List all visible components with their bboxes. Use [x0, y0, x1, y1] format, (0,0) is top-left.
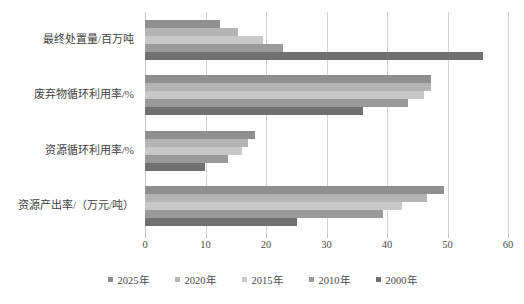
chart-legend: 2025年2020年2015年2010年2000年 — [0, 268, 524, 290]
category-label-1: 最终处置量/百万吨 — [0, 33, 134, 46]
legend-item-2010年[interactable]: 2010年 — [309, 272, 350, 287]
bar-2020年-资源循环利用率/%[interactable] — [145, 139, 248, 147]
bar-2020年-资源产出率/（万元/吨）[interactable] — [145, 194, 427, 202]
bar-2000年-废弃物循环利用率/%[interactable] — [145, 107, 363, 115]
legend-label: 2010年 — [319, 272, 350, 287]
x-tick-mark-60 — [508, 234, 509, 238]
bar-2025年-资源循环利用率/%[interactable] — [145, 131, 255, 139]
bar-2025年-废弃物循环利用率/%[interactable] — [145, 75, 431, 83]
bar-2000年-最终处置量/百万吨[interactable] — [145, 52, 483, 60]
legend-item-2000年[interactable]: 2000年 — [376, 272, 417, 287]
x-tick-label-40: 40 — [382, 239, 393, 250]
legend-swatch-icon — [242, 277, 247, 282]
x-tick-mark-10 — [206, 234, 207, 238]
bar-2000年-资源产出率/（万元/吨）[interactable] — [145, 218, 297, 226]
bar-2020年-最终处置量/百万吨[interactable] — [145, 28, 238, 36]
gridline-60 — [508, 12, 509, 234]
bar-2015年-废弃物循环利用率/%[interactable] — [145, 91, 424, 99]
bar-2010年-废弃物循环利用率/%[interactable] — [145, 99, 408, 107]
bar-group — [145, 68, 508, 124]
x-tick-mark-0 — [145, 234, 146, 238]
bar-2015年-资源循环利用率/%[interactable] — [145, 147, 242, 155]
bar-group — [145, 179, 508, 235]
x-tick-label-10: 10 — [200, 239, 211, 250]
x-tick-label-0: 0 — [142, 239, 147, 250]
legend-label: 2015年 — [252, 272, 283, 287]
bar-2010年-资源产出率/（万元/吨）[interactable] — [145, 210, 383, 218]
x-tick-mark-20 — [266, 234, 267, 238]
bar-2015年-资源产出率/（万元/吨）[interactable] — [145, 202, 402, 210]
x-tick-label-30: 30 — [321, 239, 332, 250]
legend-swatch-icon — [376, 277, 381, 282]
category-axis-labels: 最终处置量/百万吨废弃物循环利用率/%资源循环利用率/%资源产出率/（万元/吨） — [0, 12, 140, 234]
x-tick-label-20: 20 — [261, 239, 272, 250]
category-label-3: 资源循环利用率/% — [0, 144, 134, 157]
bar-chart: 最终处置量/百万吨废弃物循环利用率/%资源循环利用率/%资源产出率/（万元/吨）… — [0, 0, 524, 304]
x-tick-mark-50 — [448, 234, 449, 238]
x-tick-mark-40 — [387, 234, 388, 238]
x-tick-label-50: 50 — [442, 239, 453, 250]
legend-item-2015年[interactable]: 2015年 — [242, 272, 283, 287]
legend-label: 2025年 — [118, 272, 149, 287]
bar-2020年-废弃物循环利用率/%[interactable] — [145, 83, 431, 91]
plot-area — [145, 12, 508, 234]
legend-swatch-icon — [175, 277, 180, 282]
bar-2010年-资源循环利用率/%[interactable] — [145, 155, 228, 163]
category-label-2: 废弃物循环利用率/% — [0, 88, 134, 101]
x-axis: 0102030405060 — [145, 234, 508, 254]
bar-group — [145, 12, 508, 68]
legend-item-2020年[interactable]: 2020年 — [175, 272, 216, 287]
x-tick-label-60: 60 — [503, 239, 514, 250]
category-label-4: 资源产出率/（万元/吨） — [0, 199, 134, 212]
bar-2000年-资源循环利用率/%[interactable] — [145, 163, 205, 171]
x-tick-mark-30 — [327, 234, 328, 238]
bar-2025年-资源产出率/（万元/吨）[interactable] — [145, 186, 444, 194]
bar-group — [145, 123, 508, 179]
bar-2010年-最终处置量/百万吨[interactable] — [145, 44, 283, 52]
legend-swatch-icon — [309, 277, 314, 282]
legend-item-2025年[interactable]: 2025年 — [108, 272, 149, 287]
legend-label: 2020年 — [185, 272, 216, 287]
legend-swatch-icon — [108, 277, 113, 282]
bar-2025年-最终处置量/百万吨[interactable] — [145, 20, 220, 28]
bar-2015年-最终处置量/百万吨[interactable] — [145, 36, 263, 44]
legend-label: 2000年 — [386, 272, 417, 287]
